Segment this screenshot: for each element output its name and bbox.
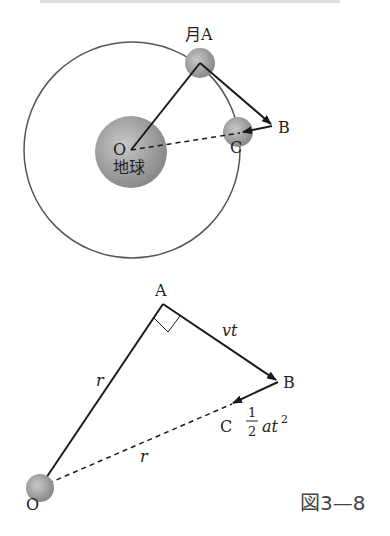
label-moon-a: 月A (185, 25, 213, 44)
label-c-top: C (230, 138, 242, 157)
label-o-top: O (113, 140, 126, 159)
label-o: O (26, 495, 39, 514)
vector-diagram: A vt B C 1 2 at 2 r r O (26, 281, 295, 514)
label-a: A (154, 281, 167, 300)
label-r-oa: r (96, 371, 105, 390)
label-r-oc: r (140, 447, 149, 466)
label-half-den: 2 (248, 424, 256, 439)
label-exp: 2 (281, 413, 288, 426)
label-b-top: B (278, 118, 290, 137)
arrow-ab-vt (163, 304, 276, 380)
orbit-diagram: 月A B C O 地球 (24, 25, 290, 258)
label-b: B (283, 373, 295, 392)
figure-caption: 図3—8 (300, 491, 365, 515)
label-earth: 地球 (113, 158, 145, 177)
figure-canvas: 月A B C O 地球 A vt B C 1 2 at 2 r r O 図3—8 (0, 0, 390, 536)
cropped-text-remnant (40, 0, 340, 3)
arrow-bc (233, 382, 278, 403)
label-c: C (220, 417, 232, 436)
right-angle-mark (154, 316, 180, 332)
label-half-num: 1 (248, 405, 256, 420)
label-at: at (262, 417, 279, 436)
label-vt: vt (222, 321, 238, 340)
arrow-ab (200, 63, 271, 124)
earth (95, 116, 167, 188)
line-oa (131, 63, 200, 150)
